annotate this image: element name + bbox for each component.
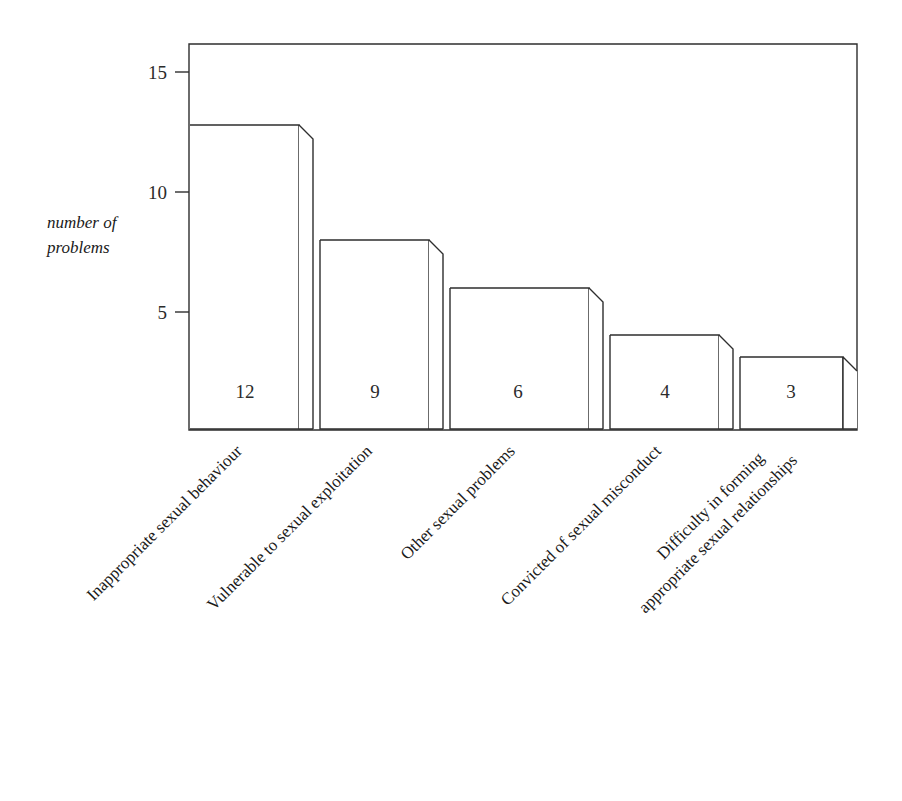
bar-side-face-1 [299,125,313,429]
y-tick-label-5: 5 [158,302,168,323]
bar-front-face-3[interactable] [450,288,589,429]
bar-value-label-3: 6 [513,381,523,402]
y-tick-label-15: 15 [148,62,167,83]
y-axis-tick-labels: 15 10 5 [148,62,167,323]
category-label-4-line-1: Convicted of sexual misconduct [497,441,665,609]
bar-value-label-4: 4 [660,381,670,402]
bar-value-label-5: 3 [786,381,796,402]
bar-group-4[interactable]: 4 [610,335,733,429]
category-label-4: Convicted of sexual misconduct [497,441,665,609]
bar-side-face-4 [719,335,733,429]
category-label-1-line-1: Inappropriate sexual behaviour [83,441,246,604]
bar-side-face-3 [589,288,603,429]
bar-group-2[interactable]: 9 [320,240,443,429]
y-axis-title-line-2: problems [46,238,110,257]
chart-svg: 15 10 5 number of problems 12 9 6 [0,0,902,801]
x-axis-category-labels: Inappropriate sexual behaviour Vulnerabl… [83,433,801,617]
bar-group-5[interactable]: 3 [740,357,857,429]
bar-side-face-5 [843,357,857,429]
category-label-3: Other sexual problems [397,441,519,563]
y-axis-title: number of problems [46,213,119,257]
bar-value-label-1: 12 [236,381,255,402]
bar-side-face-2 [429,240,443,429]
bar-group-3[interactable]: 6 [450,288,603,429]
category-label-5-line-2: appropriate sexual relationships [635,451,801,617]
category-label-3-line-1: Other sexual problems [397,441,519,563]
bar-group-1[interactable]: 12 [190,125,313,429]
y-axis-title-line-1: number of [47,213,119,232]
y-axis-ticks [175,72,189,312]
y-tick-label-10: 10 [148,182,167,203]
category-label-1: Inappropriate sexual behaviour [83,441,246,604]
bar-value-label-2: 9 [370,381,380,402]
bar-chart-figure: 15 10 5 number of problems 12 9 6 [0,0,902,801]
